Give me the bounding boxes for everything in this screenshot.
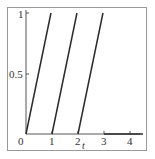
y-label-one: 1 [18, 8, 24, 20]
x-label-0: 0 [18, 135, 24, 147]
x-label-1: 1 [49, 135, 55, 147]
x-label-3: 3 [101, 135, 107, 147]
x-label-4: 4 [127, 135, 133, 147]
sawtooth-chart: 1 0.5 0 1 2 t 3 4 [0, 0, 155, 159]
x-axis-name: t [82, 140, 85, 151]
series-ramp-1 [26, 13, 51, 134]
series-ramp-2 [52, 13, 77, 134]
series-ramp-3 [78, 13, 103, 134]
x-label-2: 2 [75, 135, 81, 147]
y-label-half: 0.5 [9, 68, 23, 80]
